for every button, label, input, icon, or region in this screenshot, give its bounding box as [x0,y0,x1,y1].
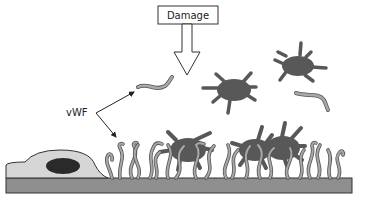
vwf-label: vWF [66,107,88,118]
bound-vwf-fibers [107,143,344,178]
vwf-damage-diagram: Damage vWF [0,0,365,202]
platelet-free-2 [275,43,326,81]
subendothelium-layer [6,178,352,193]
endothelial-cell [6,150,108,178]
vwf-pointer-arrows [96,92,134,137]
damage-arrow [174,24,200,75]
damage-label: Damage [167,10,209,21]
damage-box: Damage [158,6,218,24]
platelet-free-1 [203,73,256,113]
platelet-adhered-2 [232,127,272,168]
free-platelets [203,43,326,113]
cell-nucleus [46,158,80,174]
